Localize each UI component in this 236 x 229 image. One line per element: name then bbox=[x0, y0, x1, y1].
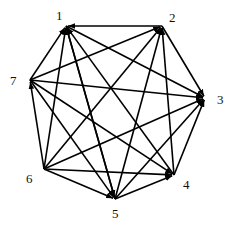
edge-4-to-3 bbox=[174, 100, 204, 175]
node-label-4: 4 bbox=[183, 177, 190, 192]
node-label-2: 2 bbox=[169, 10, 176, 25]
node-label-5: 5 bbox=[112, 206, 119, 221]
edge-7-to-5 bbox=[30, 80, 114, 197]
edge-7-to-2 bbox=[30, 27, 160, 80]
node-label-7: 7 bbox=[10, 73, 17, 88]
edge-6-to-5 bbox=[44, 169, 113, 198]
edge-4-to-2 bbox=[162, 28, 174, 175]
edge-4-to-1 bbox=[67, 28, 174, 175]
edge-5-to-4 bbox=[115, 176, 172, 199]
node-label-3: 3 bbox=[217, 92, 224, 107]
node-label-1: 1 bbox=[56, 8, 63, 23]
directed-graph-diagram: 1234567 bbox=[0, 0, 236, 229]
edges-layer bbox=[30, 26, 204, 199]
edge-6-to-7 bbox=[30, 82, 44, 169]
node-labels-layer: 1234567 bbox=[10, 8, 224, 221]
edge-6-to-2 bbox=[44, 28, 161, 169]
node-label-6: 6 bbox=[26, 171, 33, 186]
